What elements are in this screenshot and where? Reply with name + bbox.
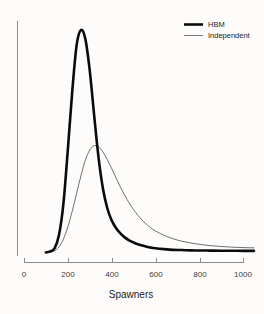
density-plot-figure: 0 200 400 600 800 1000 Spawners HBM Inde…	[0, 0, 264, 314]
x-tick-label-600: 600	[149, 270, 163, 279]
chart-background	[0, 0, 264, 314]
legend-label-independent: Independent	[208, 31, 251, 40]
x-tick-label-0: 0	[22, 270, 27, 279]
chart-svg: 0 200 400 600 800 1000 Spawners HBM Inde…	[0, 0, 264, 314]
x-axis-title: Spawners	[109, 289, 153, 300]
legend-label-hbm: HBM	[208, 20, 225, 29]
x-tick-label-400: 400	[105, 270, 119, 279]
x-tick-label-200: 200	[61, 270, 75, 279]
x-tick-label-1000: 1000	[234, 270, 252, 279]
x-tick-label-800: 800	[193, 270, 207, 279]
